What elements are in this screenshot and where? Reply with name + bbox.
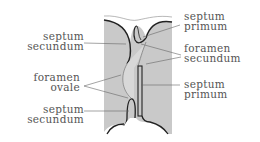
label-septum-secundum-top: septum secundum: [16, 32, 84, 51]
label-line: primum: [184, 90, 228, 100]
label-line: primum: [184, 22, 228, 32]
septum-secundum-lower: [127, 99, 135, 118]
septum-diagram: septum secundum septum primum foramen se…: [0, 0, 260, 142]
label-line: ovale: [16, 83, 80, 93]
label-septum-primum-top: septum primum: [184, 12, 228, 31]
label-line: secundum: [16, 42, 84, 52]
label-line: secundum: [184, 54, 241, 64]
label-line: secundum: [16, 115, 84, 125]
label-foramen-secundum: foramen secundum: [184, 44, 241, 63]
label-foramen-ovale: foramen ovale: [16, 73, 80, 92]
septum-primum-lower: [138, 66, 142, 116]
label-septum-primum-bottom: septum primum: [184, 80, 228, 99]
label-septum-secundum-bottom: septum secundum: [16, 105, 84, 124]
